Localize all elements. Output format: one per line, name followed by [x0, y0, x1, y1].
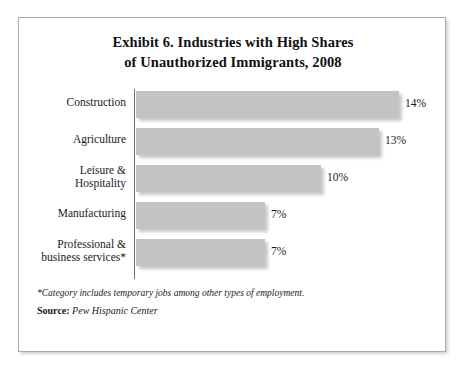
table-row: Manufacturing 7%: [19, 200, 447, 237]
bar-value-construction: 14%: [405, 97, 426, 110]
chart-footnote: *Category includes temporary jobs among …: [37, 287, 429, 300]
table-row: Construction 14%: [19, 89, 447, 126]
bar-value-professional-business-services: 7%: [271, 245, 286, 258]
bar-category-label-agriculture: Agriculture: [0, 126, 126, 146]
bar-fill-agriculture: [136, 128, 379, 155]
bar-manufacturing: [136, 202, 265, 229]
bar-agriculture: [136, 128, 379, 155]
table-row: Agriculture 13%: [19, 126, 447, 163]
bar-category-label-professional-business-services: Professional & business services*: [0, 237, 126, 264]
bar-construction: [136, 91, 399, 118]
bar-fill-construction: [136, 91, 399, 118]
bar-professional-business-services: [136, 239, 265, 266]
bar-fill-manufacturing: [136, 202, 265, 229]
chart-source-label: Source:: [37, 305, 70, 316]
chart-title: Exhibit 6. Industries with High Shares o…: [19, 32, 447, 72]
bar-fill-professional-business-services: [136, 239, 265, 266]
bar-leisure-hospitality: [136, 165, 321, 192]
chart-title-line-1: Exhibit 6. Industries with High Shares: [19, 32, 447, 52]
bar-value-manufacturing: 7%: [271, 208, 286, 221]
bar-category-label-leisure-hospitality: Leisure & Hospitality: [0, 163, 126, 190]
bar-fill-leisure-hospitality: [136, 165, 321, 192]
bar-chart-plot-area: Construction 14% Agriculture 13% Leisure…: [19, 89, 447, 281]
table-row: Professional & business services* 7%: [19, 237, 447, 274]
bar-value-leisure-hospitality: 10%: [327, 171, 348, 184]
bar-category-label-construction: Construction: [0, 89, 126, 109]
chart-source: Source: Pew Hispanic Center: [37, 304, 429, 317]
exhibit-frame: Exhibit 6. Industries with High Shares o…: [18, 17, 446, 352]
table-row: Leisure & Hospitality 10%: [19, 163, 447, 200]
bar-value-agriculture: 13%: [385, 134, 406, 147]
bar-category-label-manufacturing: Manufacturing: [0, 200, 126, 220]
chart-title-line-2: of Unauthorized Immigrants, 2008: [19, 52, 447, 72]
chart-source-value: Pew Hispanic Center: [72, 305, 158, 316]
